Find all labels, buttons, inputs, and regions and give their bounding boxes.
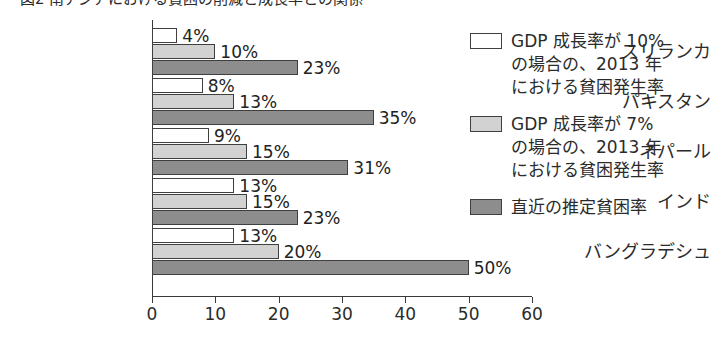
- bar: [152, 60, 298, 75]
- bar-value-label: 20%: [284, 245, 322, 260]
- bar: [152, 194, 247, 209]
- bar: [152, 260, 469, 275]
- x-axis-tick-label: 40: [395, 305, 417, 323]
- bar: [152, 244, 279, 259]
- legend-swatch: [470, 116, 502, 132]
- figure-title: 図2 南アジアにおける貧困の削減と成長率との関係: [20, 0, 363, 8]
- bar-chart: スリランカパキスタンネパールインドバングラデシュ 4%10%23%8%13%35…: [0, 14, 711, 342]
- bar-value-label: 35%: [379, 111, 417, 126]
- bar-value-label: 23%: [303, 211, 341, 226]
- legend-swatch: [470, 33, 502, 49]
- bar-value-label: 13%: [239, 95, 277, 110]
- legend-swatch: [470, 199, 502, 215]
- bar-value-label: 9%: [214, 129, 241, 144]
- x-axis-tick-label: 20: [268, 305, 290, 323]
- bar-value-label: 13%: [239, 229, 277, 244]
- bar: [152, 44, 215, 59]
- bar: [152, 94, 234, 109]
- x-axis-tick-label: 10: [205, 305, 227, 323]
- bar: [152, 210, 298, 225]
- bar-value-label: 23%: [303, 61, 341, 76]
- bar: [152, 110, 374, 125]
- bar: [152, 144, 247, 159]
- x-axis-tick-label: 0: [147, 305, 158, 323]
- x-axis-tick: [279, 297, 280, 303]
- bar-value-label: 31%: [353, 161, 391, 176]
- legend-entry: GDP 成長率が 10%の場合の、2013 年における貧困発生率: [470, 30, 711, 99]
- bar-value-label: 50%: [474, 261, 512, 276]
- bar-value-label: 10%: [220, 45, 258, 60]
- chart-legend: GDP 成長率が 10%の場合の、2013 年における貧困発生率GDP 成長率が…: [470, 30, 711, 233]
- x-axis-tick: [405, 297, 406, 303]
- bar-value-label: 8%: [208, 79, 235, 94]
- x-axis-tick: [532, 297, 533, 303]
- x-axis-tick: [215, 297, 216, 303]
- bar-value-label: 15%: [252, 195, 290, 210]
- legend-entry: 直近の推定貧困率: [470, 196, 711, 219]
- bar: [152, 78, 203, 93]
- bar: [152, 178, 234, 193]
- category-label: バングラデシュ: [565, 243, 711, 261]
- bar: [152, 228, 234, 243]
- legend-entry: GDP 成長率が 7%の場合の、2013 年における貧困発生率: [470, 113, 711, 182]
- bar: [152, 160, 348, 175]
- bar-value-label: 15%: [252, 145, 290, 160]
- x-axis-tick: [469, 297, 470, 303]
- legend-label: 直近の推定貧困率: [511, 196, 647, 219]
- bar-value-label: 4%: [182, 29, 209, 44]
- bar: [152, 28, 177, 43]
- legend-label: GDP 成長率が 10%の場合の、2013 年における貧困発生率: [511, 30, 664, 99]
- legend-label: GDP 成長率が 7%の場合の、2013 年における貧困発生率: [511, 113, 664, 182]
- x-axis-tick: [342, 297, 343, 303]
- x-axis-tick-label: 60: [521, 305, 543, 323]
- x-axis-tick-label: 50: [458, 305, 480, 323]
- x-axis-tick: [152, 297, 153, 303]
- bar: [152, 128, 209, 143]
- x-axis-tick-label: 30: [331, 305, 353, 323]
